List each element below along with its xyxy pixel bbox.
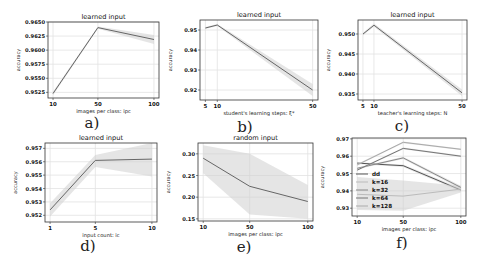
x-axis-label: images per class: ipc (382, 226, 437, 233)
subplot-label-c: c) (395, 117, 409, 135)
series-line (357, 148, 461, 170)
legend-label: k=128 (372, 203, 392, 209)
y-tick-label: 0.93 (336, 205, 349, 211)
x-tick-label: 10 (353, 219, 361, 225)
legend-label: k=32 (372, 187, 388, 193)
y-axis-label: accuracy (319, 166, 326, 189)
legend-label: dd (372, 171, 380, 177)
subplot-label-b: b) (237, 118, 252, 136)
y-tick-label: 0.97 (336, 136, 349, 142)
subplot-label-a: a) (85, 114, 100, 132)
legend-label: k=16 (372, 179, 388, 185)
subplot-label-d: d) (80, 237, 95, 255)
y-tick-label: 0.95 (336, 171, 349, 177)
y-tick-label: 0.94 (336, 188, 349, 194)
y-tick-label: 0.96 (336, 153, 349, 159)
x-tick-label: 100 (455, 219, 467, 225)
subplot-label-e: e) (237, 238, 252, 256)
subplot-label-f: f) (396, 234, 407, 252)
x-tick-label: 50 (399, 219, 407, 225)
legend-label: k=64 (372, 195, 388, 201)
